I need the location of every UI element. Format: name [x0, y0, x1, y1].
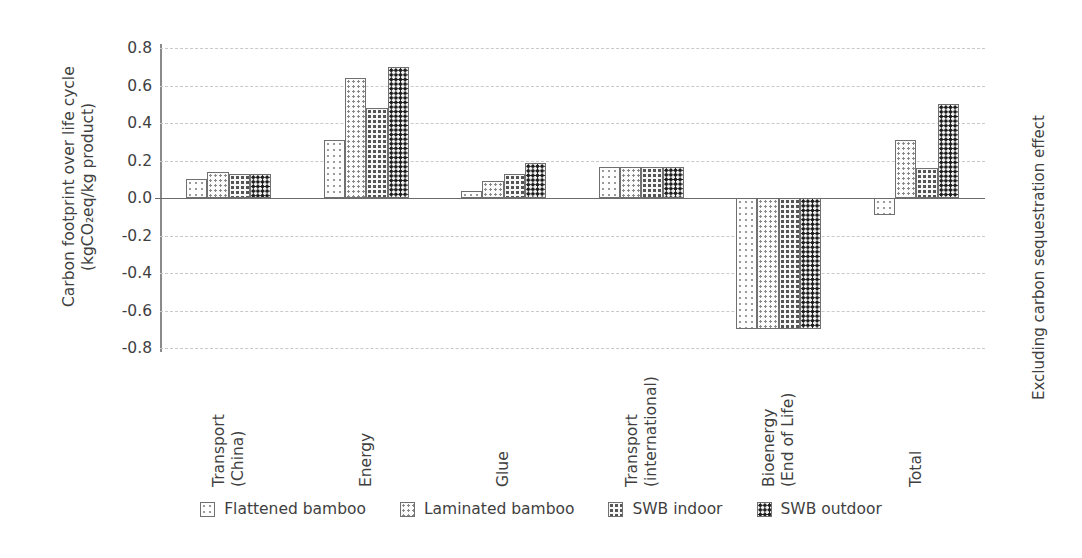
legend-label: Laminated bamboo — [424, 500, 574, 518]
bar — [895, 140, 916, 198]
bar — [504, 174, 525, 198]
y-axis-tick-label: -0.6 — [96, 302, 152, 320]
legend-label: SWB outdoor — [781, 500, 882, 518]
gridline — [160, 236, 985, 237]
bar — [800, 198, 821, 329]
legend-swatch-icon — [200, 502, 215, 517]
bar — [366, 108, 387, 198]
gridline — [160, 123, 985, 124]
y-axis-tick-label: 0.0 — [96, 189, 152, 207]
bar — [757, 198, 778, 329]
bar — [229, 174, 250, 198]
plot-area — [160, 48, 985, 348]
zero-baseline — [155, 198, 985, 199]
bar — [250, 174, 271, 198]
category-label-text: Total — [907, 362, 926, 487]
y-axis-tick-label: -0.2 — [96, 227, 152, 245]
x-axis-category-labels: Transport (China)EnergyGlueTransport (in… — [160, 362, 985, 487]
y-axis-tick-label: -0.8 — [96, 339, 152, 357]
legend-label: SWB indoor — [632, 500, 722, 518]
x-axis-category-label: Total — [848, 362, 985, 487]
legend-swatch-icon — [757, 502, 772, 517]
gridline — [160, 161, 985, 162]
category-label-text: Energy — [357, 362, 376, 487]
carbon-footprint-bar-chart: Carbon footprint over life cycle (kgCO₂e… — [0, 0, 1082, 558]
y-axis-tick-label: 0.6 — [96, 77, 152, 95]
legend-swatch-icon — [400, 502, 415, 517]
bar — [482, 181, 503, 198]
gridline — [160, 311, 985, 312]
bar — [207, 172, 228, 198]
legend-label: Flattened bamboo — [224, 500, 366, 518]
bar — [641, 167, 662, 198]
x-axis-category-label: Glue — [435, 362, 572, 487]
gridline — [160, 86, 985, 87]
legend-item[interactable]: Flattened bamboo — [200, 500, 366, 518]
legend-item[interactable]: SWB outdoor — [757, 500, 882, 518]
x-axis-category-label: Energy — [297, 362, 434, 487]
bar — [388, 67, 409, 198]
bar — [736, 198, 757, 329]
bar — [916, 168, 937, 198]
gridline — [160, 348, 985, 349]
bar — [779, 198, 800, 329]
y-axis-tick-labels: 0.80.60.40.20.0-0.2-0.4-0.6-0.8 — [96, 48, 152, 348]
category-label-text: Bioenergy (End of Life) — [760, 362, 797, 487]
bar — [599, 167, 620, 198]
y-axis-tick-label: 0.4 — [96, 114, 152, 132]
bar — [938, 104, 959, 198]
y-axis-tick-label: -0.4 — [96, 264, 152, 282]
bar — [345, 78, 366, 198]
legend-item[interactable]: Laminated bamboo — [400, 500, 574, 518]
right-axis-note: Excluding carbon sequestration effect — [1030, 18, 1049, 498]
x-axis-category-label: Transport (China) — [160, 362, 297, 487]
legend-swatch-icon — [608, 502, 623, 517]
bar — [663, 167, 684, 198]
y-axis-tick-label: 0.8 — [96, 39, 152, 57]
x-axis-category-label: Bioenergy (End of Life) — [710, 362, 847, 487]
category-label-text: Glue — [494, 362, 513, 487]
bar — [525, 163, 546, 198]
bar — [324, 140, 345, 198]
legend-item[interactable]: SWB indoor — [608, 500, 722, 518]
gridline — [160, 273, 985, 274]
category-label-text: Transport (China) — [210, 362, 247, 487]
chart-legend: Flattened bambooLaminated bambooSWB indo… — [0, 500, 1082, 518]
x-axis-category-label: Transport (international) — [573, 362, 710, 487]
bar — [186, 179, 207, 198]
category-label-text: Transport (international) — [623, 362, 660, 487]
y-axis-tick-label: 0.2 — [96, 152, 152, 170]
y-axis-title: Carbon footprint over life cycle (kgCO₂e… — [60, 22, 99, 352]
bar — [874, 198, 895, 215]
bar — [620, 167, 641, 198]
gridline — [160, 48, 985, 49]
